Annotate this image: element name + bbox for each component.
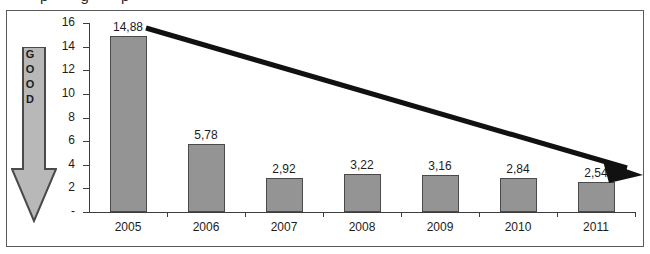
bar-2009 — [422, 175, 459, 212]
x-axis-category-label-2006: 2006 — [176, 220, 236, 234]
x-axis-line — [89, 212, 635, 213]
bar-value-label-2011: 2,54 — [566, 166, 626, 180]
y-axis-tick-label: 12 — [35, 62, 75, 76]
x-axis-category-label-2011: 2011 — [566, 220, 626, 234]
bar-value-label-2009: 3,16 — [410, 159, 470, 173]
x-axis-tick — [557, 212, 558, 217]
bar-value-label-2005: 14,88 — [98, 20, 158, 34]
y-axis-tick — [83, 141, 89, 142]
y-axis-tick-label: - — [35, 204, 75, 218]
chart-frame: G O O D -246810121416 14,885,782,923,223… — [6, 10, 644, 247]
bar-2010 — [500, 178, 537, 212]
bar-value-label-2007: 2,92 — [254, 162, 314, 176]
y-axis-tick-label: 4 — [35, 157, 75, 171]
y-axis-tick — [83, 212, 89, 213]
y-axis-line — [89, 23, 90, 213]
x-axis-tick — [245, 212, 246, 217]
page-text-cutoff-strip: p g p — [0, 0, 650, 9]
x-axis-category-label-2010: 2010 — [488, 220, 548, 234]
y-axis-tick — [83, 70, 89, 71]
bar-value-label-2008: 3,22 — [332, 158, 392, 172]
bar-2007 — [266, 178, 303, 212]
y-axis-tick-label: 6 — [35, 133, 75, 147]
y-axis-tick — [83, 188, 89, 189]
bar-2008 — [344, 174, 381, 212]
x-axis-tick — [323, 212, 324, 217]
cutoff-text: p g p — [40, 0, 143, 4]
y-axis-tick-label: 16 — [35, 15, 75, 29]
x-axis-tick — [479, 212, 480, 217]
y-axis-tick-label: 14 — [35, 39, 75, 53]
y-axis-tick — [83, 23, 89, 24]
bar-2005 — [110, 36, 147, 212]
x-axis-category-label-2009: 2009 — [410, 220, 470, 234]
x-axis-tick — [167, 212, 168, 217]
bar-value-label-2006: 5,78 — [176, 128, 236, 142]
y-axis-tick — [83, 165, 89, 166]
bar-2006 — [188, 144, 225, 212]
bar-2011 — [578, 182, 615, 212]
y-axis-tick-label: 2 — [35, 180, 75, 194]
x-axis-tick — [401, 212, 402, 217]
y-axis-tick — [83, 47, 89, 48]
x-axis-category-label-2005: 2005 — [98, 220, 158, 234]
scanned-chart-figure: p g p G O O D -246810121416 14,885,782,9… — [0, 0, 650, 254]
y-axis-tick — [83, 94, 89, 95]
y-axis-tick — [83, 118, 89, 119]
x-axis-category-label-2007: 2007 — [254, 220, 314, 234]
plot-area: G O O D -246810121416 14,885,782,923,223… — [7, 11, 645, 248]
bar-value-label-2010: 2,84 — [488, 162, 548, 176]
y-axis-tick-label: 8 — [35, 110, 75, 124]
y-axis-tick-label: 10 — [35, 86, 75, 100]
x-axis-category-label-2008: 2008 — [332, 220, 392, 234]
x-axis-tick — [635, 212, 636, 217]
